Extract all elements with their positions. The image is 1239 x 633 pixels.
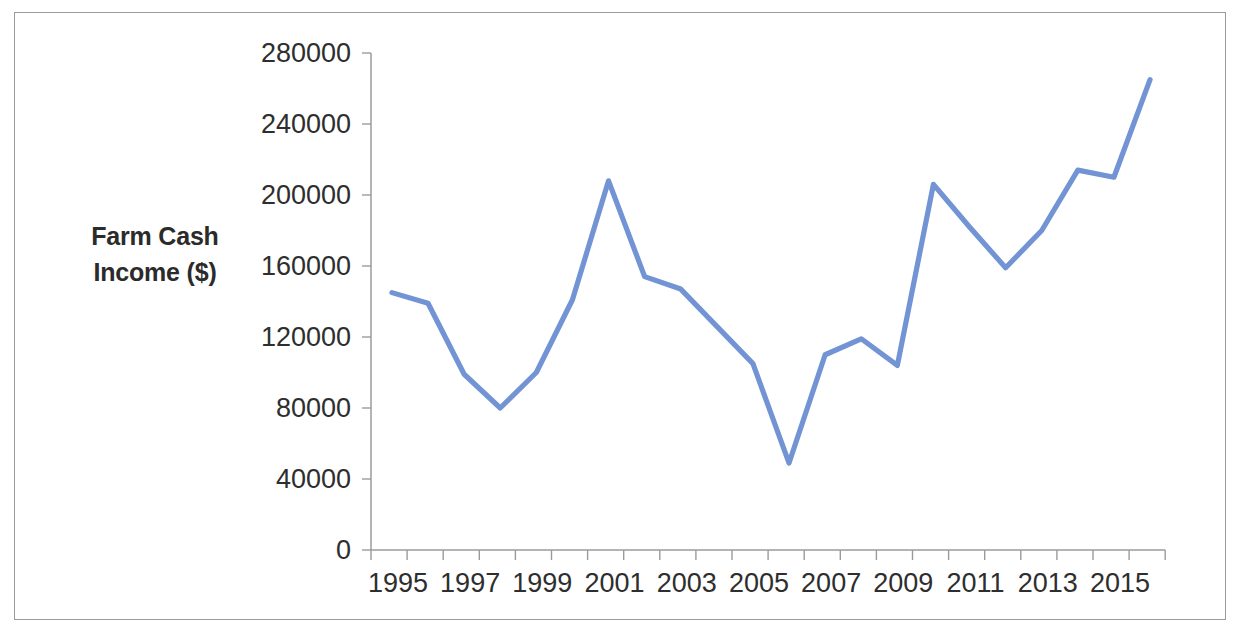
- y-tick-label: 280000: [261, 38, 351, 68]
- x-tick-label: 1999: [512, 568, 572, 598]
- x-axis-tick-marks: [371, 550, 1165, 560]
- x-tick-label: 2001: [584, 568, 644, 598]
- y-tick-label: 40000: [276, 464, 351, 494]
- y-axis-tick-marks: [362, 53, 371, 550]
- y-tick-label: 240000: [261, 109, 351, 139]
- chart-container: Farm Cash Income ($) 0400008000012000016…: [0, 0, 1239, 633]
- y-tick-label: 160000: [261, 251, 351, 281]
- y-tick-label: 120000: [261, 322, 351, 352]
- y-tick-label: 80000: [276, 393, 351, 423]
- y-axis-tick-labels: 0400008000012000016000020000024000028000…: [261, 38, 351, 565]
- x-tick-label: 2003: [657, 568, 717, 598]
- x-tick-label: 2011: [947, 568, 1005, 598]
- plot-area: 0400008000012000016000020000024000028000…: [0, 0, 1239, 633]
- x-tick-label: 2005: [729, 568, 789, 598]
- x-tick-label: 2007: [801, 568, 861, 598]
- y-tick-label: 0: [336, 535, 351, 565]
- y-tick-label: 200000: [261, 180, 351, 210]
- x-tick-label: 1995: [368, 568, 428, 598]
- x-tick-label: 1997: [440, 568, 500, 598]
- x-tick-label: 2013: [1018, 568, 1078, 598]
- x-tick-label: 2009: [873, 568, 933, 598]
- x-axis-tick-labels: 1995199719992001200320052007200920112013…: [368, 568, 1150, 598]
- x-tick-label: 2015: [1090, 568, 1150, 598]
- data-series-line: [392, 80, 1150, 463]
